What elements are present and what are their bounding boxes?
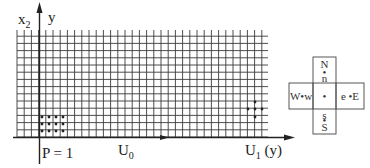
u0-marker-arrow-icon bbox=[160, 135, 169, 140]
vertical-axis-arrow-icon bbox=[37, 2, 43, 13]
grid-node-dot bbox=[48, 130, 51, 133]
u1-label: U1 (y) bbox=[245, 143, 282, 158]
stencil-n-face-label: n bbox=[313, 73, 336, 84]
grid-node-dot bbox=[55, 116, 58, 119]
grid-node-dot bbox=[62, 123, 65, 126]
dot-blocks bbox=[41, 101, 264, 133]
grid-node-dot bbox=[254, 101, 257, 104]
stencil-center-point: • bbox=[313, 91, 336, 102]
grid-node-dot bbox=[41, 116, 44, 119]
grid-node-dot bbox=[247, 108, 250, 111]
grid-node-dot bbox=[48, 116, 51, 119]
grid-node-dot bbox=[41, 130, 44, 133]
u0-label: U0 bbox=[118, 143, 134, 158]
grid-node-dot bbox=[62, 130, 65, 133]
grid-node-dot bbox=[55, 123, 58, 126]
grid-node-dot bbox=[55, 130, 58, 133]
grid-node-dot bbox=[48, 123, 51, 126]
stencil-east-label: e •E bbox=[336, 91, 364, 102]
grid-node-dot bbox=[254, 108, 257, 111]
grid-node-dot bbox=[261, 108, 264, 111]
grid-diagram bbox=[0, 0, 370, 168]
p-equals-label: P = 1 bbox=[42, 146, 73, 161]
stencil-south-label: S bbox=[313, 122, 336, 133]
grid-node-dot bbox=[254, 116, 257, 119]
x2-axis-label: x2 bbox=[18, 12, 31, 27]
grid-node-dot bbox=[62, 116, 65, 119]
stencil-west-label: W•w bbox=[289, 91, 313, 102]
computational-grid bbox=[17, 30, 268, 137]
grid-node-dot bbox=[41, 123, 44, 126]
y-axis-label: y bbox=[48, 10, 56, 25]
horizontal-axis-arrow-icon bbox=[284, 135, 295, 141]
